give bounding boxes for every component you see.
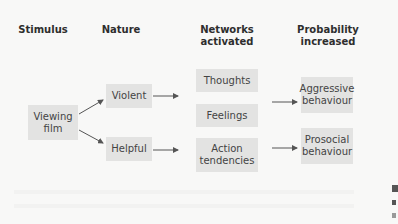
arrow-film-to-helpful [79,130,103,143]
arrow-film-to-violent [79,100,103,114]
cropped-text-fragment [392,185,398,192]
cropped-text-fragment [392,200,396,205]
arrows-layer [0,0,398,224]
flow-diagram: Stimulus Nature Networks activated Proba… [0,0,398,224]
cropped-text-fragment [392,213,396,218]
